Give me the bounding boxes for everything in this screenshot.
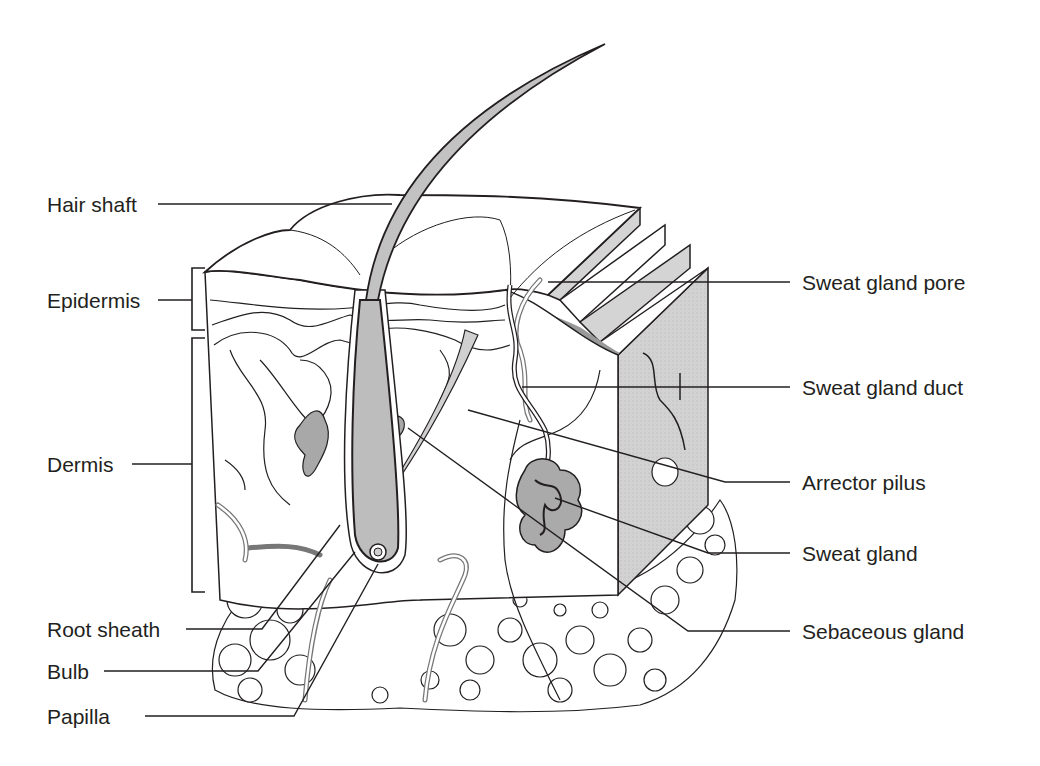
label-bulb: Bulb	[47, 661, 89, 682]
skin-diagram: Hair shaft Epidermis Dermis Root sheath …	[0, 0, 1040, 766]
layer-brackets	[192, 268, 205, 592]
block-front-face	[205, 271, 618, 609]
label-sweat-gland-pore: Sweat gland pore	[802, 272, 965, 293]
label-papilla: Papilla	[47, 706, 110, 727]
label-hair-shaft: Hair shaft	[47, 194, 137, 215]
label-sweat-gland: Sweat gland	[802, 543, 918, 564]
label-arrector-pilus: Arrector pilus	[802, 472, 926, 493]
label-sebaceous-gland: Sebaceous gland	[802, 621, 964, 642]
label-root-sheath: Root sheath	[47, 619, 160, 640]
label-epidermis: Epidermis	[47, 290, 140, 311]
label-dermis: Dermis	[47, 454, 114, 475]
label-sweat-gland-duct: Sweat gland duct	[802, 377, 963, 398]
